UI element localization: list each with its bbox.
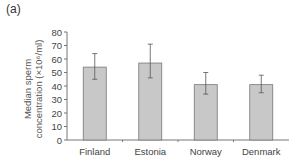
- y-tick-label: 80: [51, 27, 62, 38]
- x-category-label: Estonia: [134, 146, 166, 157]
- x-category-label: Norway: [190, 146, 222, 157]
- y-tick-label: 0: [57, 135, 62, 146]
- y-tick-label: 70: [51, 40, 62, 51]
- y-tick-label: 20: [51, 108, 62, 119]
- bar-chart: 01020304050607080FinlandEstoniaNorwayDen…: [0, 0, 301, 165]
- y-tick-label: 50: [51, 67, 62, 78]
- y-tick-label: 30: [51, 94, 62, 105]
- y-tick-label: 60: [51, 54, 62, 65]
- x-category-label: Finland: [79, 146, 110, 157]
- y-tick-label: 10: [51, 121, 62, 132]
- x-category-label: Denmark: [242, 146, 281, 157]
- y-tick-label: 40: [51, 81, 62, 92]
